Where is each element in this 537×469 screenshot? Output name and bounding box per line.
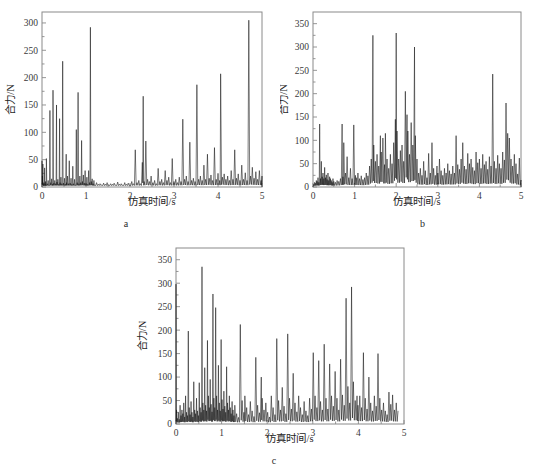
y-axis-title: 合力/N (280, 84, 289, 115)
y-tick-label: 50 (163, 396, 173, 406)
y-tick-label: 300 (24, 18, 39, 28)
chart-b-svg: 012345050100150200250300350仿真时间/s合力/N (280, 0, 537, 232)
y-tick-label: 300 (158, 279, 173, 289)
y-tick-label: 150 (24, 100, 39, 110)
y-tick-label: 100 (295, 136, 310, 146)
x-tick-label: 5 (519, 191, 524, 201)
y-tick-label: 350 (295, 19, 310, 29)
x-tick-label: 4 (477, 191, 482, 201)
y-tick-label: 250 (24, 46, 39, 56)
y-tick-label: 200 (24, 73, 39, 83)
x-tick-label: 5 (260, 191, 265, 201)
y-axis-title: 合力/N (136, 320, 148, 351)
x-tick-label: 4 (356, 428, 361, 438)
chart-panel-b: 012345050100150200250300350仿真时间/s合力/N b (280, 0, 537, 232)
x-tick-label: 0 (311, 191, 316, 201)
y-tick-label: 250 (295, 66, 310, 76)
x-axis-title: 仿真时间/s (128, 195, 175, 207)
y-tick-label: 100 (158, 372, 173, 382)
y-tick-label: 200 (295, 89, 310, 99)
y-tick-label: 0 (33, 182, 38, 192)
x-axis-title: 仿真时间/s (393, 195, 440, 207)
y-tick-label: 100 (24, 128, 39, 138)
y-tick-label: 250 (158, 302, 173, 312)
chart-a-plot-area: 012345050100150200250300仿真时间/s合力/N (4, 12, 265, 207)
data-series-line (176, 267, 398, 424)
x-tick-label: 1 (352, 191, 357, 201)
chart-panel-c: 012345050100150200250300350仿真时间/s合力/N c (128, 232, 420, 469)
data-series-line (42, 20, 262, 187)
x-tick-label: 1 (219, 428, 224, 438)
x-tick-label: 0 (174, 428, 179, 438)
y-tick-label: 50 (29, 155, 39, 165)
chart-b-plot-area: 012345050100150200250300350仿真时间/s合力/N (280, 12, 524, 207)
x-tick-label: 4 (216, 191, 221, 201)
chart-panel-a: 012345050100150200250300仿真时间/s合力/N a (0, 0, 280, 232)
y-tick-label: 300 (295, 42, 310, 52)
y-tick-label: 150 (295, 112, 310, 122)
chart-a-svg: 012345050100150200250300仿真时间/s合力/N (0, 0, 280, 232)
data-series-line (313, 33, 521, 187)
x-tick-label: 1 (84, 191, 89, 201)
chart-b-sublabel: b (294, 218, 537, 229)
plot-frame (42, 12, 262, 187)
chart-c-sublabel: c (128, 455, 420, 466)
x-tick-label: 0 (40, 191, 45, 201)
y-tick-label: 0 (167, 419, 172, 429)
y-tick-label: 150 (158, 349, 173, 359)
x-axis-title: 仿真时间/s (266, 432, 313, 444)
y-axis-title: 合力/N (4, 84, 16, 115)
chart-a-sublabel: a (0, 218, 266, 229)
y-tick-label: 50 (300, 159, 310, 169)
y-tick-label: 200 (158, 326, 173, 336)
chart-c-plot-area: 012345050100150200250300350仿真时间/s合力/N (136, 248, 407, 444)
y-tick-label: 350 (158, 255, 173, 265)
chart-c-svg: 012345050100150200250300350仿真时间/s合力/N (128, 232, 420, 469)
y-tick-label: 0 (304, 182, 309, 192)
x-tick-label: 5 (402, 428, 407, 438)
